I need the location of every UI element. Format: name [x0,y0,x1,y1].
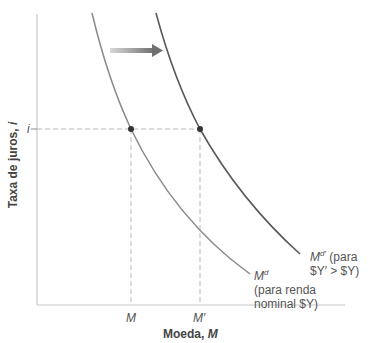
money-demand-diagram [0,0,377,343]
md-prime-label: Md′ (para $Y′ > $Y) [310,247,359,278]
md-prime-curve [156,13,300,254]
equilibrium-point-m [128,126,134,132]
equilibrium-point-m-prime [197,126,203,132]
y-axis-title: Taxa de juros, i [6,100,20,230]
tick-i-label: i [27,122,30,136]
tick-m-prime-label: M′ [193,311,205,325]
shift-arrow-icon [110,44,163,57]
tick-m-label: M [126,311,136,325]
md-label: Md (para renda nominal $Y) [254,266,318,311]
x-axis-title: Moeda, M [163,327,218,341]
